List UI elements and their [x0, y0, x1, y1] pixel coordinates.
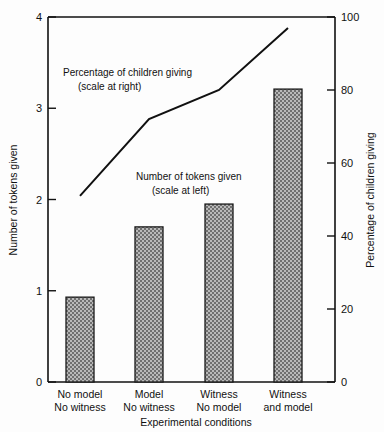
- cat-label-3-line-1: Witness: [269, 388, 306, 400]
- bar-model-no-witness[interactable]: [135, 227, 163, 382]
- bar-witness-no-model[interactable]: [205, 204, 233, 382]
- cat-label-0-line-1: No model: [58, 388, 103, 400]
- cat-label-0-line-2: No witness: [54, 401, 105, 413]
- left-tick-label-4: 4: [36, 11, 42, 23]
- x-axis-title: Experimental conditions: [140, 416, 251, 428]
- bar-no-model-no-witness[interactable]: [66, 297, 94, 382]
- left-tick-label-2: 2: [36, 194, 42, 206]
- right-tick-label-60: 60: [341, 157, 353, 169]
- line-annotation-line-2: (scale at right): [78, 81, 141, 92]
- tokens-vs-percentage-chart: 0 1 2 3 4 0 20 40 60 80 100: [0, 0, 384, 432]
- right-tick-label-100: 100: [341, 11, 359, 23]
- cat-label-2-line-1: Witness: [200, 388, 237, 400]
- right-tick-label-80: 80: [341, 84, 353, 96]
- right-tick-label-20: 20: [341, 303, 353, 315]
- right-tick-label-0: 0: [341, 376, 347, 388]
- y-axis-title-left: Number of tokens given: [7, 144, 19, 255]
- chart-background: [0, 0, 384, 432]
- left-tick-label-0: 0: [36, 376, 42, 388]
- line-annotation-line-1: Percentage of children giving: [63, 67, 192, 78]
- cat-label-2-line-2: No model: [197, 401, 242, 413]
- left-tick-label-3: 3: [36, 102, 42, 114]
- bar-witness-and-model[interactable]: [274, 89, 302, 382]
- cat-label-1-line-2: No witness: [123, 401, 174, 413]
- bar-annotation-line-1: Number of tokens given: [136, 171, 242, 182]
- left-tick-label-1: 1: [36, 285, 42, 297]
- y-axis-title-right: Percentage of children giving: [364, 132, 376, 268]
- chart-container: 0 1 2 3 4 0 20 40 60 80 100: [0, 0, 384, 432]
- bar-annotation-line-2: (scale at left): [152, 185, 209, 196]
- cat-label-1-line-1: Model: [135, 388, 164, 400]
- right-tick-label-40: 40: [341, 230, 353, 242]
- cat-label-3-line-2: and model: [263, 401, 312, 413]
